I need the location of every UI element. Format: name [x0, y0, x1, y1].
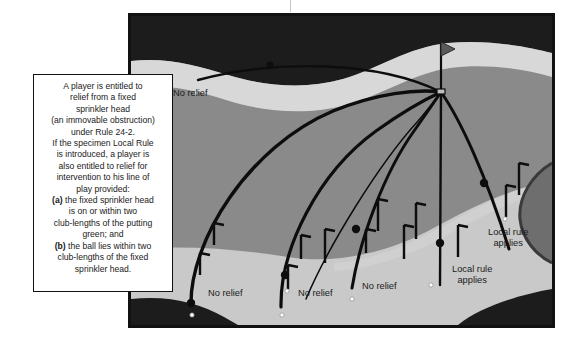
line-of-play-5: [440, 92, 441, 285]
ball-white: [429, 283, 433, 287]
label-local-rule-1: Local rule applies: [452, 264, 492, 285]
ball-marker-dot: [352, 225, 360, 233]
ball-white: [190, 313, 194, 317]
ball-white: [350, 297, 354, 301]
ball-marker-dot: [281, 271, 289, 279]
ball-marker-dot: [187, 299, 195, 307]
ball-white: [503, 217, 507, 221]
ball-white: [280, 313, 284, 317]
ball-marker-dot: [436, 239, 444, 247]
diagram-page: No relief No relief No relief No relief …: [0, 0, 582, 346]
rule-explanation-text: A player is entitled to relief from a fi…: [34, 75, 172, 279]
rule-explanation-box: A player is entitled to relief from a fi…: [33, 74, 173, 292]
label-local-rule-2: Local rule applies: [488, 227, 528, 248]
crop-tick-mark: [290, 0, 291, 12]
label-no-relief-3: No relief: [362, 281, 397, 292]
ball-marker-dot: [480, 179, 488, 187]
label-no-relief-1: No relief: [208, 288, 243, 299]
label-no-relief-2: No relief: [298, 288, 333, 299]
ball-marker-dot: [266, 61, 273, 68]
label-no-relief-top: No relief: [173, 88, 208, 99]
ball-white: [285, 289, 289, 293]
hole-cup: [437, 89, 445, 94]
